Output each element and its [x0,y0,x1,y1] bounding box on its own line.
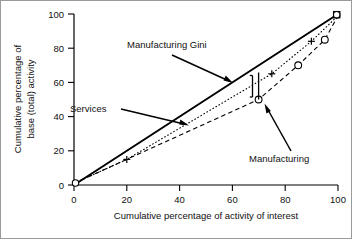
annotation-label-services: Services [70,103,107,114]
y-tick-label-40: 40 [53,111,64,122]
x-tick-label-40: 40 [174,194,185,205]
x-axis-tick-labels: 0 20 40 60 80 100 [71,194,346,205]
y-tick-label-20: 20 [53,145,64,156]
x-tick-label-60: 60 [227,194,238,205]
gini-bracket [250,73,259,100]
annotation-leader-services [121,109,184,124]
y-axis-title-line2: base (total) activity [25,59,36,138]
y-axis-tick-labels: 100 80 60 40 20 0 [48,9,64,191]
annotation-label-manufacturing: Manufacturing [249,153,309,164]
annotation-leader-manufacturing-gini [172,55,229,81]
marker-plus-75-65 [268,70,275,77]
y-axis-title-line1: Cumulative percentage of [12,45,23,154]
y-tick-label-100: 100 [48,9,64,20]
marker-circle-85-70 [295,62,302,69]
marker-endpoint-circle [334,12,340,18]
y-tick-label-80: 80 [53,43,64,54]
annotation-label-manufacturing-gini: Manufacturing Gini [127,39,207,50]
lorenz-curve-chart: 100 80 60 40 20 0 0 20 40 60 80 100 Cumu… [1,1,352,239]
annotation-leader-manufacturing [267,108,291,151]
x-tick-label-100: 100 [330,194,346,205]
x-axis-title: Cumulative percentage of activity of int… [114,210,299,221]
marker-circle-95-85 [321,36,328,43]
x-tick-label-20: 20 [122,194,133,205]
annotation-manufacturing: Manufacturing [249,104,309,165]
manufacturing-markers [255,36,328,103]
marker-origin [72,180,78,186]
x-tick-label-0: 0 [71,194,76,205]
y-tick-label-60: 60 [53,77,64,88]
annotation-arrowhead-services [179,119,189,125]
annotation-manufacturing-gini: Manufacturing Gini [127,39,233,83]
marker-plus-20-15 [123,156,130,163]
y-tick-label-0: 0 [59,180,64,191]
services-markers [123,38,315,163]
x-tick-label-80: 80 [280,194,291,205]
annotation-arrowhead-manufacturing-gini [224,76,234,83]
x-axis-ticks [74,185,338,191]
y-axis-ticks [68,14,74,185]
chart-figure: 100 80 60 40 20 0 0 20 40 60 80 100 Cumu… [0,0,352,239]
